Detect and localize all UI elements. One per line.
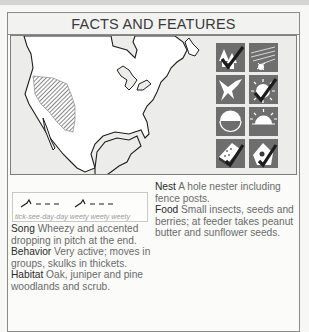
forest-habitat-icon[interactable] [216,43,245,72]
range-map [10,35,297,175]
facts-card: FACTS AND FEATURES [7,12,300,332]
food-fact: Food Small insects, seeds and berries; a… [155,204,301,239]
song-pattern-graphic [19,197,139,211]
song-caption: tick-see-day-day weety weety weety [15,212,130,221]
song-fact: Song Wheezy and accented dropping in pit… [11,223,161,246]
feeder-seed-icon[interactable] [216,139,245,168]
behavior-label: Behavior [11,246,51,257]
sun-daytime-icon[interactable] [249,75,278,104]
sunrise-icon[interactable] [249,107,278,136]
habitat-fact: Habitat Oak, juniper and pine woodlands … [11,269,161,292]
flight-burst-icon[interactable] [249,43,278,72]
top-strip [0,0,309,5]
behavior-fact: Behavior Very active; moves in groups, s… [11,246,161,269]
title-bar: FACTS AND FEATURES [8,13,299,35]
nest-label: Nest [155,181,176,192]
bird-flying-icon[interactable] [216,75,245,104]
habitat-label: Habitat [11,269,43,280]
food-label: Food [155,204,178,215]
facts-right-column: Nest A hole nester including fence posts… [155,181,301,239]
feature-icon-grid [216,43,278,168]
nest-fact: Nest A hole nester including fence posts… [155,181,301,204]
song-sonogram: tick-see-day-day weety weety weety [12,192,148,222]
birdhouse-icon[interactable] [249,139,278,168]
facts-left-column: Song Wheezy and accented dropping in pit… [11,223,161,293]
page-title: FACTS AND FEATURES [71,16,235,32]
half-circle-icon[interactable] [216,107,245,136]
song-label: Song [11,223,35,234]
